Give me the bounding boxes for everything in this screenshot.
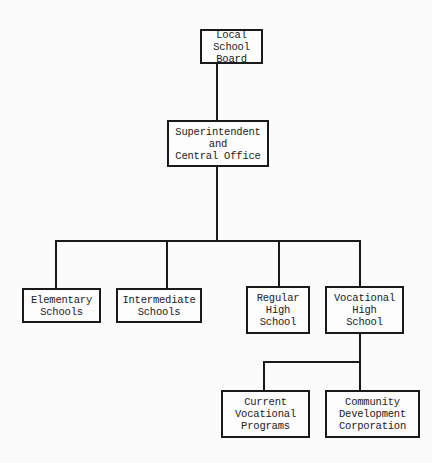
connector-super-down — [216, 166, 218, 241]
node-regular-high-school: Regular High School — [246, 286, 310, 334]
connector-inter — [166, 240, 168, 288]
node-community-development-corporation: Community Development Corporation — [325, 390, 420, 438]
connector-board-super — [216, 63, 218, 120]
node-current-vocational-programs: Current Vocational Programs — [221, 390, 310, 438]
node-local-school-board: Local School Board — [200, 29, 263, 64]
connector-level3-bar — [263, 361, 361, 363]
connector-elem — [55, 240, 57, 288]
connector-cdc — [359, 361, 361, 390]
connector-curvoc — [263, 361, 265, 390]
node-intermediate-schools: Intermediate Schools — [116, 288, 202, 323]
node-elementary-schools: Elementary Schools — [22, 288, 101, 323]
node-superintendent-central-office: Superintendent and Central Office — [167, 120, 269, 167]
connector-level2-bar — [55, 240, 361, 242]
connector-vochs-down — [359, 333, 361, 363]
connector-reghs — [278, 240, 280, 286]
connector-vochs — [359, 240, 361, 286]
node-vocational-high-school: Vocational High School — [325, 286, 404, 334]
